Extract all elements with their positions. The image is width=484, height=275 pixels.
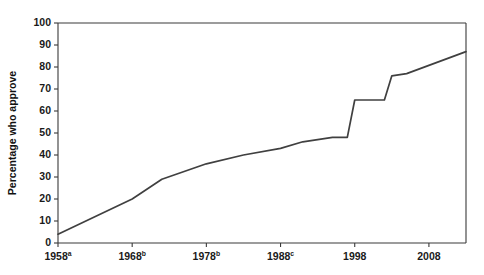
x-tick-label: 1978b bbox=[193, 250, 221, 262]
y-axis-title: Percentage who approve bbox=[6, 71, 18, 195]
x-tick-label: 1998 bbox=[343, 250, 367, 262]
x-tick-superscript: c bbox=[290, 250, 294, 257]
x-tick-label: 1988c bbox=[267, 250, 294, 262]
y-tick-label: 10 bbox=[39, 214, 51, 226]
x-tick-label: 1968b bbox=[118, 250, 146, 262]
x-tick-label: 2008 bbox=[417, 250, 441, 262]
y-axis-ticks: 0102030405060708090100 bbox=[33, 16, 58, 248]
line-chart: Percentage who approve 01020304050607080… bbox=[0, 0, 484, 275]
y-tick-label: 100 bbox=[33, 16, 51, 28]
y-tick-label: 80 bbox=[39, 60, 51, 72]
x-tick-label: 1958a bbox=[44, 250, 71, 262]
y-tick-label: 90 bbox=[39, 38, 51, 50]
y-tick-label: 20 bbox=[39, 192, 51, 204]
y-tick-label: 40 bbox=[39, 148, 51, 160]
x-tick-superscript: b bbox=[216, 250, 220, 257]
x-tick-superscript: b bbox=[142, 250, 146, 257]
y-tick-label: 60 bbox=[39, 104, 51, 116]
x-tick-superscript: a bbox=[68, 250, 72, 257]
chart-container: Percentage who approve 01020304050607080… bbox=[0, 0, 484, 275]
y-tick-label: 70 bbox=[39, 82, 51, 94]
plot-frame bbox=[58, 23, 466, 243]
data-series-line bbox=[58, 52, 466, 235]
y-tick-label: 30 bbox=[39, 170, 51, 182]
y-tick-label: 50 bbox=[39, 126, 51, 138]
x-axis-ticks: 1958a1968b1978b1988c19982008 bbox=[44, 243, 440, 262]
y-tick-label: 0 bbox=[45, 236, 51, 248]
